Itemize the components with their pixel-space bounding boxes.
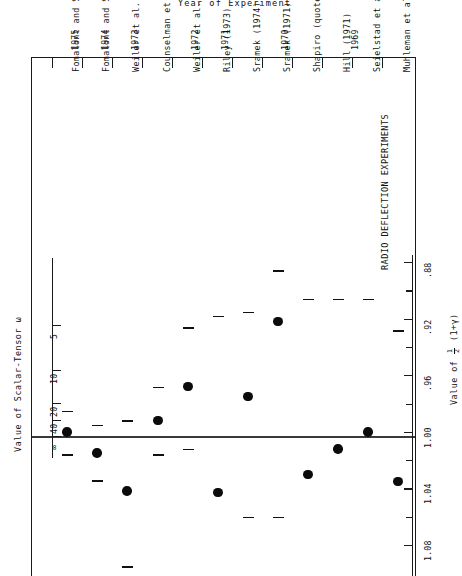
- error-cap-lower: [363, 299, 374, 301]
- error-cap-upper: [62, 454, 73, 456]
- error-cap-upper: [153, 454, 164, 456]
- error-cap-upper: [183, 449, 194, 451]
- data-point[interactable]: [213, 488, 223, 498]
- data-point[interactable]: [243, 392, 253, 402]
- data-point[interactable]: [183, 382, 193, 392]
- data-series: [0, 0, 462, 576]
- error-cap-lower: [243, 312, 254, 314]
- data-point[interactable]: [333, 444, 343, 454]
- error-cap-lower: [62, 411, 73, 413]
- error-cap-lower: [92, 425, 103, 427]
- error-cap-upper: [92, 480, 103, 482]
- data-point[interactable]: [153, 416, 163, 426]
- error-cap-lower: [273, 270, 284, 272]
- error-cap-upper: [273, 517, 284, 519]
- error-cap-lower: [183, 327, 194, 329]
- error-cap-lower: [213, 316, 224, 318]
- error-cap-upper: [122, 566, 133, 568]
- error-cap-lower: [122, 420, 133, 422]
- data-point[interactable]: [92, 448, 102, 458]
- data-point[interactable]: [363, 427, 373, 437]
- data-point[interactable]: [393, 477, 403, 487]
- data-point[interactable]: [273, 317, 283, 327]
- error-cap-lower: [393, 330, 404, 332]
- error-cap-lower: [303, 299, 314, 301]
- data-point[interactable]: [62, 427, 72, 437]
- error-cap-lower: [153, 387, 164, 389]
- error-cap-upper: [243, 517, 254, 519]
- data-point[interactable]: [122, 486, 132, 496]
- error-cap-lower: [333, 299, 344, 301]
- chart-canvas: Year of Experiment 197519741973197219711…: [0, 0, 462, 576]
- data-point[interactable]: [303, 470, 313, 480]
